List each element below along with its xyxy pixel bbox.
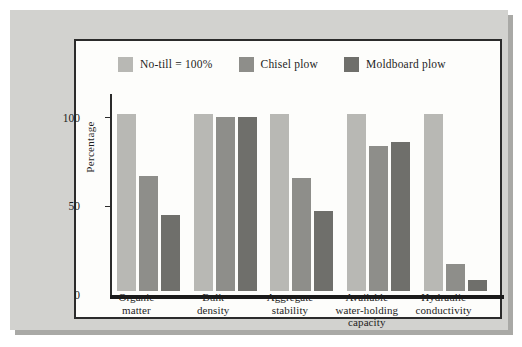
bar[interactable] bbox=[314, 211, 333, 291]
bar[interactable] bbox=[292, 178, 311, 291]
y-tick-label-50: 50 bbox=[43, 200, 80, 212]
bar[interactable] bbox=[446, 264, 465, 291]
bar-group bbox=[340, 96, 417, 291]
chart-panel: No-till = 100% Chisel plow Moldboard plo… bbox=[74, 39, 502, 319]
bar[interactable] bbox=[270, 114, 289, 291]
bar[interactable] bbox=[391, 142, 410, 291]
bar[interactable] bbox=[369, 146, 388, 291]
x-axis-label: Hydraulicconductivity bbox=[389, 291, 499, 316]
x-axis-label-line: Hydraulic bbox=[389, 291, 499, 304]
figure-root: No-till = 100% Chisel plow Moldboard plo… bbox=[0, 0, 522, 347]
bar[interactable] bbox=[117, 114, 136, 291]
bar-group bbox=[110, 96, 187, 291]
bar-group bbox=[187, 96, 264, 291]
bar-group bbox=[264, 96, 341, 291]
bar[interactable] bbox=[424, 114, 443, 291]
bar[interactable] bbox=[139, 176, 158, 291]
x-axis-label-line: conductivity bbox=[389, 304, 499, 317]
y-tick-label-100: 100 bbox=[43, 112, 80, 124]
y-tick-label-0: 0 bbox=[43, 289, 80, 301]
figure-mat: No-till = 100% Chisel plow Moldboard plo… bbox=[10, 10, 508, 330]
bar-group bbox=[417, 96, 494, 291]
plot-area bbox=[76, 41, 500, 317]
bar[interactable] bbox=[194, 114, 213, 291]
x-axis-label-line: capacity bbox=[312, 316, 422, 329]
bar[interactable] bbox=[161, 215, 180, 291]
bar[interactable] bbox=[238, 117, 257, 291]
bar[interactable] bbox=[347, 114, 366, 291]
bar[interactable] bbox=[216, 117, 235, 291]
bars-layer bbox=[76, 41, 500, 317]
bar[interactable] bbox=[468, 280, 487, 291]
